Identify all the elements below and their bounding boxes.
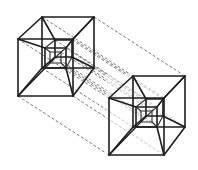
left-tesseract	[18, 17, 94, 96]
tesseract-diagram	[0, 0, 198, 170]
right-tesseract	[106, 74, 188, 158]
